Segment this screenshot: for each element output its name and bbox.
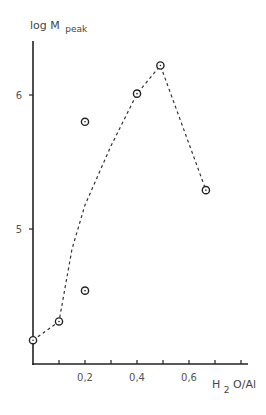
y-axis-title: log M peak xyxy=(30,19,88,34)
data-point xyxy=(81,118,88,125)
y-tick-label: 5 xyxy=(16,224,22,235)
x-tick-label: 0,6 xyxy=(181,372,197,383)
data-point xyxy=(81,287,88,294)
x-axis-title-h: H xyxy=(212,378,220,391)
y-axis-title-main: log M xyxy=(30,19,60,32)
x-axis-title-sub: 2 xyxy=(224,385,230,395)
data-point xyxy=(133,90,140,97)
x-tick-label: 0,4 xyxy=(129,372,145,383)
x-tick-label: 0,2 xyxy=(77,372,93,383)
data-point xyxy=(29,337,36,344)
x-axis-title-rest: O/Al xyxy=(233,378,256,391)
y-ticks: 65 xyxy=(16,90,33,235)
data-point xyxy=(157,62,164,69)
data-markers xyxy=(29,62,209,344)
chart: 0,20,40,6 65 log M peak H 2 O/Al xyxy=(0,0,266,415)
data-point xyxy=(202,187,209,194)
x-axis-title: H 2 O/Al xyxy=(212,378,256,396)
y-axis-title-sub: peak xyxy=(65,24,88,34)
data-point xyxy=(55,318,62,325)
dashed-trend-line xyxy=(33,66,206,341)
y-tick-label: 6 xyxy=(16,90,22,101)
trend-line xyxy=(33,66,206,341)
axes xyxy=(32,41,248,365)
